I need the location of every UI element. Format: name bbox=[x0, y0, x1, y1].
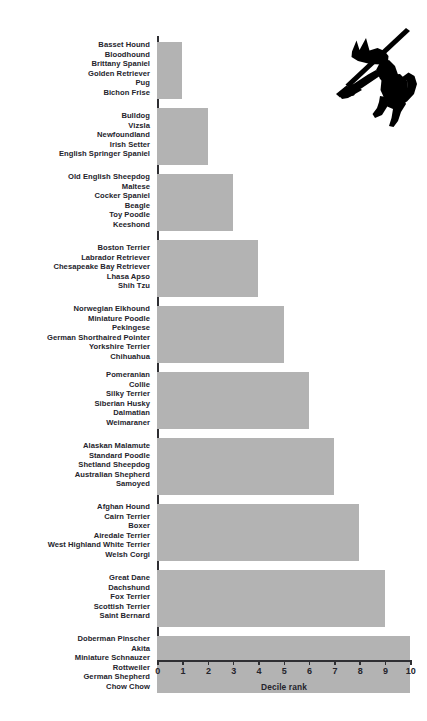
breed-label: Shih Tzu bbox=[53, 281, 150, 291]
breed-label: Miniature Poodle bbox=[47, 314, 150, 324]
breed-label: Bulldog bbox=[59, 111, 150, 121]
x-tick bbox=[233, 660, 235, 665]
x-tick bbox=[258, 660, 260, 665]
bar-group: Alaskan Malamute Standard Poodle Shetlan… bbox=[0, 432, 427, 494]
x-tick-label: 10 bbox=[396, 666, 426, 676]
breed-label: Australian Shepherd bbox=[75, 470, 150, 480]
breed-label: Alaskan Malamute bbox=[75, 441, 150, 451]
breed-label: Akita bbox=[75, 644, 150, 654]
bar bbox=[157, 306, 284, 363]
x-axis-label: Decile rank bbox=[157, 682, 411, 692]
breed-label: Chesapeake Bay Retriever bbox=[53, 262, 150, 272]
breed-label: Siberian Husky bbox=[94, 399, 150, 409]
bar-group-labels: Basset Hound Bloodhound Brittany Spaniel… bbox=[88, 40, 150, 97]
x-tick bbox=[309, 660, 311, 665]
bar bbox=[157, 570, 385, 627]
breed-label: German Shorthaired Pointer bbox=[47, 333, 150, 343]
breed-label: Great Dane bbox=[94, 573, 150, 583]
breed-label: Labrador Retriever bbox=[53, 253, 150, 263]
breed-label: Dachshund bbox=[94, 583, 150, 593]
breed-label: Maltese bbox=[68, 182, 150, 192]
breed-label: Norwegian Elkhound bbox=[47, 304, 150, 314]
breed-label: Fox Terrier bbox=[94, 592, 150, 602]
x-tick bbox=[385, 660, 387, 665]
bar-group-labels: Great Dane Dachshund Fox Terrier Scottis… bbox=[94, 573, 150, 621]
bar bbox=[157, 372, 309, 429]
breed-label: Bloodhound bbox=[88, 50, 150, 60]
breed-label: Irish Setter bbox=[59, 140, 150, 150]
breed-label: Lhasa Apso bbox=[53, 272, 150, 282]
breed-label: Boston Terrier bbox=[53, 243, 150, 253]
breed-label: Brittany Spaniel bbox=[88, 59, 150, 69]
bar-group: Great Dane Dachshund Fox Terrier Scottis… bbox=[0, 564, 427, 626]
breed-label: Yorkshire Terrier bbox=[47, 342, 150, 352]
bar-group: Afghan Hound Cairn Terrier Boxer Airedal… bbox=[0, 498, 427, 560]
x-tick bbox=[208, 660, 210, 665]
breed-label: Doberman Pinscher bbox=[75, 634, 150, 644]
bar-group-labels: Boston Terrier Labrador Retriever Chesap… bbox=[53, 243, 150, 291]
bar-group: Bulldog Vizsla Newfoundland Irish Setter… bbox=[0, 102, 427, 164]
breed-label: Vizsla bbox=[59, 121, 150, 131]
breed-label: Weimaraner bbox=[94, 418, 150, 428]
breed-label: Golden Retriever bbox=[88, 69, 150, 79]
bar-group: Pomeranian Collie Silky Terrier Siberian… bbox=[0, 366, 427, 428]
breed-label: Dalmatian bbox=[94, 408, 150, 418]
x-tick bbox=[410, 660, 412, 665]
breed-label: Toy Poodle bbox=[68, 210, 150, 220]
breed-label: Airedale Terrier bbox=[48, 531, 150, 541]
breed-label: Cocker Spaniel bbox=[68, 191, 150, 201]
x-tick bbox=[284, 660, 286, 665]
breed-label: Beagle bbox=[68, 201, 150, 211]
breed-label: Scottish Terrier bbox=[94, 602, 150, 612]
bar-group: Norwegian Elkhound Miniature Poodle Peki… bbox=[0, 300, 427, 362]
breed-label: Pug bbox=[88, 78, 150, 88]
breed-label: Collie bbox=[94, 380, 150, 390]
bar-group-labels: Alaskan Malamute Standard Poodle Shetlan… bbox=[75, 441, 150, 489]
breed-label: Shetland Sheepdog bbox=[75, 460, 150, 470]
breed-label: Basset Hound bbox=[88, 40, 150, 50]
breed-label: Samoyed bbox=[75, 479, 150, 489]
breed-label: Boxer bbox=[48, 521, 150, 531]
bar bbox=[157, 240, 258, 297]
bar bbox=[157, 174, 233, 231]
breed-label: Chihuahua bbox=[47, 352, 150, 362]
bar-group-labels: Bulldog Vizsla Newfoundland Irish Setter… bbox=[59, 111, 150, 159]
breed-label: West Highland White Terrier bbox=[48, 540, 150, 550]
breed-label: English Springer Spaniel bbox=[59, 149, 150, 159]
bar bbox=[157, 108, 208, 165]
breed-label: Newfoundland bbox=[59, 130, 150, 140]
breed-label: Standard Poodle bbox=[75, 451, 150, 461]
breed-label: Saint Bernard bbox=[94, 611, 150, 621]
bar bbox=[157, 42, 182, 99]
x-tick bbox=[334, 660, 336, 665]
plot-area: Basset Hound Bloodhound Brittany Spaniel… bbox=[0, 36, 427, 664]
breed-label: Welsh Corgi bbox=[48, 550, 150, 560]
breed-label: Bichon Frise bbox=[88, 88, 150, 98]
bar-group-labels: Norwegian Elkhound Miniature Poodle Peki… bbox=[47, 304, 150, 361]
bar-group-labels: Pomeranian Collie Silky Terrier Siberian… bbox=[94, 370, 150, 427]
breed-label: Pekingese bbox=[47, 323, 150, 333]
bar-group: Old English Sheepdog Maltese Cocker Span… bbox=[0, 168, 427, 230]
breed-label: Keeshond bbox=[68, 220, 150, 230]
bar-group: Boston Terrier Labrador Retriever Chesap… bbox=[0, 234, 427, 296]
bar-group: Basset Hound Bloodhound Brittany Spaniel… bbox=[0, 36, 427, 98]
breed-label: Silky Terrier bbox=[94, 389, 150, 399]
x-tick bbox=[359, 660, 361, 665]
bar-group-labels: Old English Sheepdog Maltese Cocker Span… bbox=[68, 172, 150, 229]
x-axis: 0 1 2 3 4 5 6 7 8 9 10 Decile rank bbox=[0, 660, 427, 721]
bar bbox=[157, 504, 359, 561]
breed-label: Old English Sheepdog bbox=[68, 172, 150, 182]
breed-label: Pomeranian bbox=[94, 370, 150, 380]
bar-chart-figure: Basset Hound Bloodhound Brittany Spaniel… bbox=[0, 0, 427, 721]
x-tick bbox=[182, 660, 184, 665]
bar bbox=[157, 438, 334, 495]
x-tick bbox=[157, 660, 159, 665]
breed-label: Cairn Terrier bbox=[48, 512, 150, 522]
bar-group-labels: Afghan Hound Cairn Terrier Boxer Airedal… bbox=[48, 502, 150, 559]
breed-label: Afghan Hound bbox=[48, 502, 150, 512]
